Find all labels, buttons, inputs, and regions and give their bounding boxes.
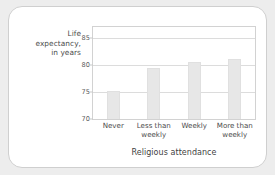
y-axis-title-line-2: expectancy, — [15, 39, 81, 49]
y-tick-label: 85 — [82, 34, 90, 42]
y-tick-mark — [90, 91, 93, 92]
bar — [107, 91, 120, 119]
bar — [188, 62, 201, 119]
y-tick-mark — [90, 37, 93, 38]
y-axis-title: Life expectancy, in years — [15, 29, 81, 58]
x-tick-label-line: weekly — [130, 131, 178, 140]
x-axis-title: Religious attendance — [92, 148, 256, 157]
x-tick-label-line: weekly — [211, 131, 259, 140]
y-tick-label: 80 — [82, 61, 90, 69]
bar — [147, 68, 160, 119]
y-axis-title-line-3: in years — [15, 48, 81, 58]
bar — [228, 59, 241, 119]
gridline — [93, 38, 255, 39]
y-tick-mark — [90, 64, 93, 65]
plot-area: 85807570NeverLess thanweeklyWeeklyMore t… — [92, 26, 256, 120]
y-tick-label: 75 — [82, 88, 90, 96]
y-axis-title-line-1: Life — [15, 29, 81, 39]
x-tick-label: More thanweekly — [211, 122, 259, 139]
figure-card: Life expectancy, in years 85807570NeverL… — [8, 6, 267, 168]
y-tick-mark — [90, 119, 93, 120]
